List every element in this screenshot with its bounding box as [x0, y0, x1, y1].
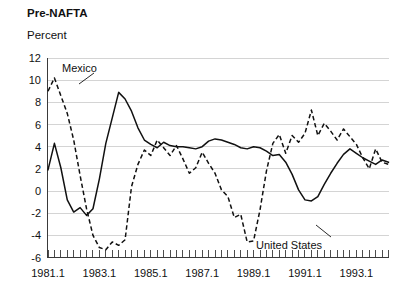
x-axis-tick-label: 1993.1	[340, 267, 374, 279]
chart-subtitle: Percent	[27, 29, 67, 41]
x-axis-tick-label: 1991.1	[288, 267, 322, 279]
series-label-mexico: Mexico	[62, 62, 97, 74]
series-label-united-states: United States	[256, 239, 323, 251]
chart-figure: Pre-NAFTA Percent -6-4-2024681012 Mexico…	[0, 0, 405, 296]
y-axis-tick-label: 10	[29, 74, 41, 86]
x-axis-tick-label: 1981.1	[31, 267, 65, 279]
y-axis-tick-label: -4	[31, 229, 41, 241]
y-axis-tick-label: -2	[31, 207, 41, 219]
y-axis-tick-label: -6	[31, 252, 41, 264]
x-axis-tick-label: 1985.1	[134, 267, 168, 279]
y-axis-tick-label: 12	[29, 52, 41, 64]
x-axis-tick-label: 1983.1	[83, 267, 117, 279]
y-axis-tick-label: 0	[35, 185, 41, 197]
x-axis-tick-label: 1989.1	[237, 267, 271, 279]
y-axis-tick-label: 8	[35, 96, 41, 108]
x-axis-tick-label: 1987.1	[185, 267, 219, 279]
y-axis-tick-label: 2	[35, 163, 41, 175]
y-axis-tick-label: 6	[35, 119, 41, 131]
y-axis-tick-label: 4	[35, 141, 41, 153]
chart-title: Pre-NAFTA	[27, 7, 87, 19]
